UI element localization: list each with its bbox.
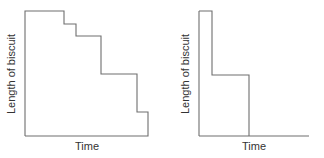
left-chart-step-line [25, 11, 148, 136]
left-chart: Time Length of biscuit [5, 11, 148, 152]
left-chart-y-axis-label: Length of biscuit [5, 34, 17, 114]
charts-canvas: Time Length of biscuit Time Length of bi… [0, 0, 324, 158]
right-chart-step-line [199, 11, 249, 136]
left-chart-x-axis-label: Time [75, 140, 99, 152]
right-chart: Time Length of biscuit [179, 11, 309, 152]
right-chart-x-axis-label: Time [242, 140, 266, 152]
right-chart-y-axis-label: Length of biscuit [179, 34, 191, 114]
